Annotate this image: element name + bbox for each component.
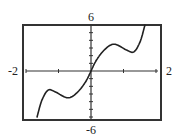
xmax-label: 2 xyxy=(166,64,172,78)
graph-window: 6 -6 -2 2 xyxy=(0,0,179,139)
ymax-label: 6 xyxy=(88,10,94,24)
ymin-label: -6 xyxy=(86,123,96,137)
xmin-label: -2 xyxy=(8,64,18,78)
